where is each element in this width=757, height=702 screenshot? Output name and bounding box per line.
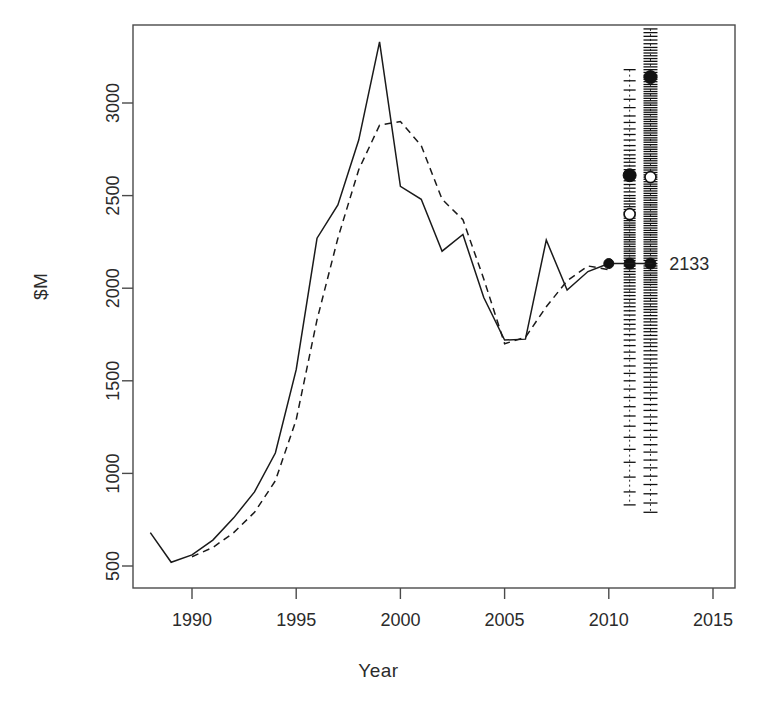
x-axis-label: Year — [0, 660, 757, 682]
strip-plots-group — [623, 29, 657, 512]
strip-2012-median-dot — [645, 172, 656, 183]
y-tick-label: 3000 — [103, 83, 123, 123]
x-tick-label: 2000 — [380, 610, 420, 630]
strip-2012-mean-dot — [644, 71, 657, 84]
y-tick-label: 2500 — [103, 176, 123, 216]
axes-group: 1990199520002005201020155001000150020002… — [103, 25, 735, 630]
chart-canvas: 1990199520002005201020155001000150020002… — [0, 0, 757, 702]
x-tick-label: 1990 — [172, 610, 212, 630]
y-tick-label: 1500 — [103, 361, 123, 401]
annotation-value-label: 2133 — [669, 254, 709, 274]
x-tick-label: 2010 — [589, 610, 629, 630]
chart-figure: 1990199520002005201020155001000150020002… — [0, 0, 757, 702]
strip-2011-mean-dot — [623, 169, 636, 182]
series-solid — [150, 42, 608, 562]
x-tick-label: 2005 — [485, 610, 525, 630]
x-tick-label: 2015 — [693, 610, 733, 630]
y-axis-label: $M — [30, 273, 52, 300]
annotation-anchor-dot — [604, 259, 614, 269]
strip-2011-median-dot — [624, 209, 635, 220]
y-tick-label: 2000 — [103, 268, 123, 308]
y-tick-label: 1000 — [103, 453, 123, 493]
y-tick-label: 500 — [103, 551, 123, 581]
series-group — [150, 42, 608, 562]
x-tick-label: 1995 — [276, 610, 316, 630]
